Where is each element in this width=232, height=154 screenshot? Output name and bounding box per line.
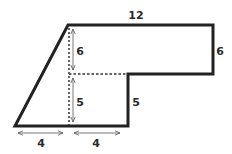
top-width-label: 12	[128, 9, 143, 22]
composite-shape-diagram: 12 6 5 6 5 4 4	[0, 0, 232, 154]
step-height-label: 5	[132, 96, 140, 109]
bottom-left-width-label: 4	[37, 137, 45, 150]
inner-lower-height-label: 5	[76, 96, 84, 109]
shape-outline	[15, 25, 213, 126]
inner-upper-height-label: 6	[76, 45, 84, 58]
right-height-label: 6	[216, 45, 224, 58]
bottom-right-width-label: 4	[92, 137, 100, 150]
